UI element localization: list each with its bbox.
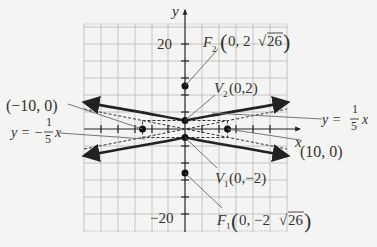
left-point-label: (−10, 0) xyxy=(6,97,58,115)
v1-sub: 1 xyxy=(224,179,229,189)
asym-pos-num: 1 xyxy=(352,102,358,116)
asym-neg-den: 5 xyxy=(45,132,51,146)
f2-body: 0, 2 xyxy=(228,33,251,49)
f1-open: ( xyxy=(231,208,238,233)
asym-pos-lhs: y = xyxy=(320,112,341,127)
asym-pos-den: 5 xyxy=(351,119,357,133)
f1-radicand: 26 xyxy=(288,212,304,228)
asym-neg-num: 1 xyxy=(46,115,52,129)
f1-close: ) xyxy=(304,208,311,233)
f2-radical: √ xyxy=(258,33,267,49)
right-point-label: (10, 0) xyxy=(300,143,343,161)
f1-body: 0, −2 xyxy=(239,212,270,228)
asym-neg-var: x xyxy=(54,125,62,140)
tick-label-20: 20 xyxy=(157,36,172,52)
v2-sub: 2 xyxy=(223,89,228,99)
asym-neg-lhs: y = − xyxy=(9,125,43,140)
f2-open: ( xyxy=(220,29,227,54)
tick-label-neg20: −20 xyxy=(150,210,173,226)
asym-pos-var: x xyxy=(361,112,369,127)
v1-coord: (0,−2) xyxy=(229,170,266,187)
f2-close: ) xyxy=(283,29,290,54)
hyperbola-figure: y x 20 −20 F 2 ( 0, 2 √ 26 ) V 2 (0,2) V… xyxy=(0,0,377,247)
f1-sub: 1 xyxy=(226,221,231,231)
f2-radicand: 26 xyxy=(267,33,283,49)
f1-radical: √ xyxy=(279,212,288,228)
y-axis-label: y xyxy=(170,3,179,19)
f2-sub: 2 xyxy=(212,44,217,54)
v2-coord: (0,2) xyxy=(229,80,258,97)
